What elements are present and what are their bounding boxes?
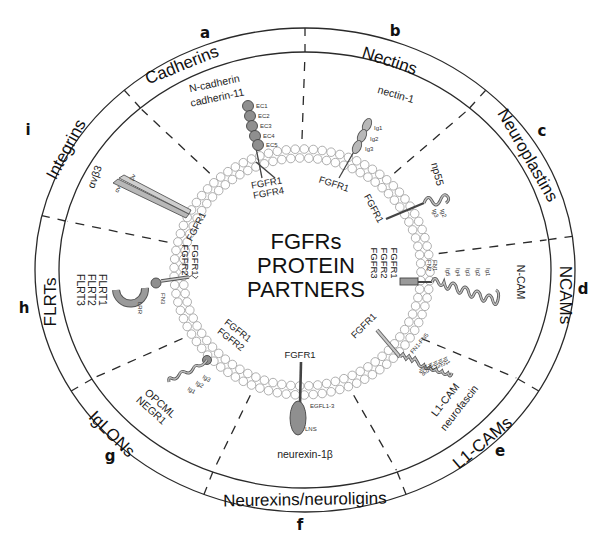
domain-label: Ig2 (439, 208, 448, 219)
domain-label: EC1 (256, 103, 268, 109)
domain-label: EC3 (260, 123, 272, 129)
protein-name: N-CAM (515, 265, 527, 299)
panel-letter-c: c (538, 122, 547, 140)
receptor-label: FGFR3 (369, 247, 380, 278)
panel-letter-b: b (390, 22, 401, 40)
category-label-flrts: FLRTs (41, 278, 60, 327)
domain-label: EC5 (266, 142, 278, 148)
receptor-label: FGFR1 (318, 174, 351, 194)
domain-label: LNS (305, 426, 317, 432)
domain-label: FN3 (160, 293, 166, 305)
domain-ec1 (243, 101, 254, 112)
category-label-neurexins: Neurexins/neuroligins (223, 489, 387, 511)
panel-letter-d: d (578, 280, 589, 298)
panel-letter-g: g (105, 447, 116, 465)
protein-name: np55 (429, 161, 447, 187)
domain-label: Ig4 (455, 268, 461, 277)
domain-label: Ig1 (485, 268, 491, 277)
panel-letter-a: a (200, 24, 210, 42)
integrin-beta-subunit (119, 175, 191, 214)
domain-egfl-lns (290, 401, 306, 435)
protein-name: neurexin-1β (277, 448, 333, 460)
domain-label: Ig1 (374, 125, 383, 131)
domain-label: EC4 (263, 133, 275, 139)
receptor-label: FGFR2 (180, 244, 191, 275)
center-title-line-3: PARTNERS (247, 277, 365, 302)
receptor-label: FGFR1 (362, 192, 386, 225)
category-label-ncams: NCAMs (556, 266, 575, 325)
integrin-alpha-subunit (113, 179, 189, 218)
domain-label: Ig5 (445, 268, 451, 277)
diagram-canvas: Cadherins Nectins Neuroplastins NCAMs L1… (0, 0, 605, 548)
integrin-protein: αvβ3 αv βv FGFR1 (85, 164, 208, 243)
center-title: FGFRs PROTEIN PARTNERS (247, 229, 365, 302)
domain-ec5 (253, 140, 264, 151)
center-title-line-1: FGFRs (271, 229, 342, 254)
domain-label: EC2 (258, 113, 270, 119)
domain-label: Ig3 (465, 268, 471, 277)
panel-letter-e: e (495, 442, 505, 460)
center-title-line-2: PROTEIN (257, 253, 355, 278)
protein-name: nectin-1 (376, 83, 415, 105)
receptor-label: FGFR1 (284, 349, 315, 360)
domain-label: Ig2 (370, 136, 379, 142)
category-label-neuroplastins: Neuroplastins (494, 105, 562, 205)
domain-ec3 (247, 121, 258, 132)
ncam-protein: N-CAM FN1 FN2 Ig5 Ig4 Ig3 Ig2 Ig1 FGFR1 … (369, 247, 527, 304)
domain-label: Ig1 (187, 386, 198, 396)
fgfr-tm-segment (400, 278, 418, 285)
receptor-label: FGFR1 (349, 311, 379, 341)
category-label-integrins: Integrins (42, 116, 89, 182)
domain-label: EGFL1-3 (310, 403, 335, 409)
domain-ec2 (245, 111, 256, 122)
category-label-nectins: Nectins (360, 43, 420, 79)
panel-letter-h: h (19, 299, 30, 317)
domain-label: Ig3 (431, 208, 440, 219)
protein-name: FLRT3 (75, 274, 87, 306)
domain-label: Ig2 (475, 268, 481, 277)
domain-fn3 (151, 278, 161, 288)
domain-label: Ig3 (365, 146, 374, 152)
neurexin-protein: FGFR1 EGFL1-3 LNS neurexin-1β (277, 349, 335, 460)
domain-label: Ig2 (195, 380, 206, 390)
fgfr-partners-diagram: Cadherins Nectins Neuroplastins NCAMs L1… (0, 0, 605, 548)
domain-label: βv (128, 173, 136, 181)
panel-letter-i: i (25, 121, 30, 139)
domain-label: FN2 (426, 260, 432, 272)
domain-label: LRR (137, 302, 143, 315)
panel-letter-f: f (297, 516, 304, 534)
